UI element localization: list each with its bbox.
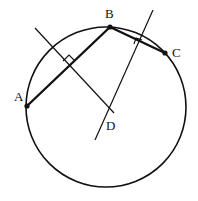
label-C: C: [172, 45, 181, 60]
point-A: [24, 103, 29, 108]
right-angle-marks: [63, 38, 142, 61]
perp-bisector-AB: [35, 28, 114, 113]
geometry-diagram: ABCD: [0, 0, 198, 201]
point-C: [162, 50, 167, 55]
point-labels: ABCD: [14, 6, 181, 133]
label-B: B: [105, 6, 114, 21]
point-B: [107, 24, 112, 29]
chord-AB: [27, 27, 110, 106]
label-D: D: [106, 118, 115, 133]
perpendicular-bisectors: [35, 10, 153, 140]
chord-BC: [110, 27, 165, 53]
label-A: A: [14, 89, 24, 104]
